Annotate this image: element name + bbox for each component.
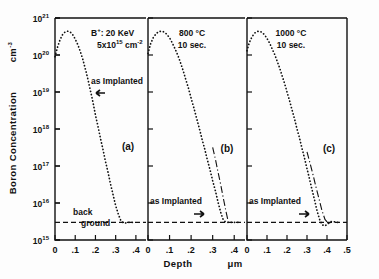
panel-1-as-implanted-arrow-right — [194, 211, 204, 217]
panel-0-series-0-dotted — [55, 31, 134, 223]
panel-2-condition-line-0: 1000 °C — [276, 28, 307, 38]
panel-2-as-implanted-arrow-right — [299, 211, 309, 217]
panel-0-x-tick-label-0: 0 — [52, 245, 57, 255]
boron-depth-profile-figure: 1015101610171018101910201021Boron Concen… — [0, 0, 379, 279]
panel-0-x-tick-label-2: .2 — [92, 245, 100, 255]
panel-0-as-implanted-arrow-left — [96, 90, 105, 96]
panel-1-as-implanted-label: as Implanted — [150, 196, 202, 206]
panel-0-axes — [55, 18, 146, 240]
panel-2-x-tick-label-1: .1 — [263, 245, 271, 255]
panel-1-x-tick-label-0: 0 — [145, 245, 150, 255]
panel-2-axes — [247, 18, 347, 240]
panel-1-condition-line-1: 10 sec. — [178, 40, 206, 50]
x-axis-units: μm — [227, 258, 242, 269]
x-axis-title: Depth — [164, 258, 193, 269]
panel-2-x-tick-label-3: .3 — [303, 245, 311, 255]
y-tick-label-5: 1020 — [33, 50, 50, 61]
panel-0-id: (a) — [122, 141, 134, 152]
panel-1-axes — [148, 18, 245, 240]
y-axis-title: Boron Concentration — [7, 92, 18, 195]
y-tick-label-4: 1019 — [33, 87, 50, 98]
y-tick-label-0: 1015 — [33, 235, 50, 246]
panel-0-implant-species: B+: 20 KeV — [91, 27, 135, 38]
panel-2-id: (c) — [323, 143, 335, 154]
panel-2-x-tick-label-2: .2 — [283, 245, 291, 255]
y-tick-label-2: 1017 — [33, 161, 50, 172]
panel-0-as-implanted-label: as Implanted — [91, 76, 143, 86]
panel-2-as-implanted-label: as Implanted — [249, 196, 301, 206]
panel-1-x-tick-label-1: .1 — [166, 245, 174, 255]
y-tick-label-1: 1016 — [33, 198, 50, 209]
panel-0-x-tick-label-4: .4 — [132, 245, 140, 255]
chart-canvas: 1015101610171018101910201021Boron Concen… — [0, 0, 379, 279]
panel-1-x-tick-label-3: .3 — [209, 245, 217, 255]
y-axis-units: cm-3 — [7, 41, 18, 62]
panel-0-implant-dose: 5x1015 cm-2 — [97, 39, 143, 50]
panel-2-x-tick-label-5: .5 — [343, 245, 351, 255]
panel-1-x-tick-label-4: .4 — [230, 245, 238, 255]
panel-1-condition-line-0: 800 °C — [179, 28, 205, 38]
panel-0-x-tick-label-1: .1 — [71, 245, 79, 255]
panel-2-x-tick-label-4: .4 — [323, 245, 331, 255]
panel-1-id: (b) — [221, 143, 234, 154]
panel-2-series-1-dash-dot — [307, 152, 331, 223]
panel-1-series-0-dotted — [148, 31, 239, 222]
y-tick-label-3: 1018 — [33, 124, 50, 135]
panel-2-condition-line-1: 10 sec. — [277, 40, 305, 50]
panel-1-x-tick-label-2: .2 — [187, 245, 195, 255]
panel-2-x-tick-label-0: 0 — [244, 245, 249, 255]
background-label-line1: back — [73, 207, 93, 217]
background-label-line2: ground — [81, 218, 110, 228]
panel-0-x-tick-label-3: .3 — [112, 245, 120, 255]
y-tick-label-6: 1021 — [33, 13, 50, 24]
